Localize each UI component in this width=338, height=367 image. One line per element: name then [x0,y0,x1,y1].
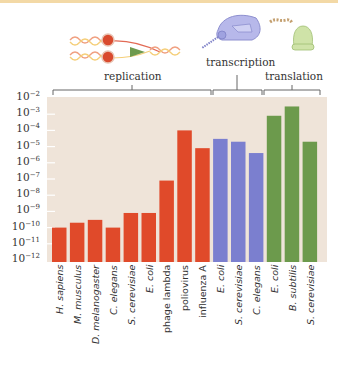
bar-translation [303,142,318,262]
x-tick-label: S. cerevisiae [126,265,137,325]
bar-transcription [213,139,228,262]
bar-transcription [231,142,246,262]
bar-replication [124,213,139,262]
x-tick-label: E. coli [269,265,280,293]
transcription-illustration-icon [202,15,260,48]
bar-replication [142,213,157,262]
transcription-label: transcription [206,56,275,68]
bar-replication [106,228,121,262]
x-tick-label: C. elegans [251,265,262,315]
replication-bracket [53,85,211,95]
ytick-label: 10−8 [0,187,40,199]
ytick-label: 10−3 [0,106,40,118]
x-tick-label: poliovirus [179,265,190,311]
translation-bracket [264,85,320,95]
ytick-label: 10−2 [0,90,40,102]
transcription-bracket [213,75,262,95]
x-tick-label: E. coli [215,265,226,293]
x-tick-label: S. cerevisiae [233,265,244,325]
x-tick-label: phage lambda [161,265,172,333]
ytick-label: 10−6 [0,155,40,167]
bar-replication [88,220,103,262]
translation-illustration-icon [270,20,314,50]
bar-replication [159,181,174,262]
bar-replication [52,228,67,262]
x-tick-label: M. musculus [72,265,83,324]
bar-translation [285,106,300,262]
bar-replication [195,148,210,262]
replication-label: replication [104,70,161,82]
x-tick-label: D. melanogaster [90,265,101,344]
bar-replication [177,130,192,262]
x-tick-label: B. subtilis [287,265,298,311]
x-tick-label: E. coli [144,265,155,293]
translation-label: translation [265,70,323,82]
x-tick-label: H. sapiens [54,265,65,314]
ytick-label: 10−12 [0,252,40,264]
ytick-label: 10−4 [0,122,40,134]
replication-illustration-icon [70,34,180,63]
ytick-label: 10−5 [0,139,40,151]
x-tick-label: S. cerevisiae [305,265,316,325]
bar-transcription [249,153,264,262]
ytick-label: 10−10 [0,220,40,232]
x-tick-label: influenza A [197,265,208,318]
ytick-label: 10−7 [0,171,40,183]
ytick-label: 10−11 [0,236,40,248]
x-tick-label: C. elegans [108,265,119,315]
bar-translation [267,116,282,262]
ytick-label: 10−9 [0,203,40,215]
bar-replication [70,223,85,262]
